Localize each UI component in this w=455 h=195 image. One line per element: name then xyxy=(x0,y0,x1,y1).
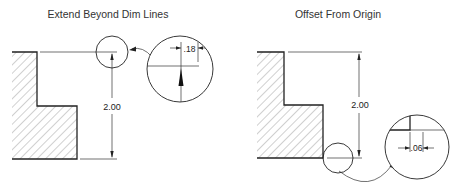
diagram-canvas: Extend Beyond Dim Lines 2.00 xyxy=(0,0,455,195)
leader-arrowhead-icon xyxy=(129,47,136,52)
detail-dimension-value: .06 xyxy=(411,143,423,153)
detail-dimension-value: .18 xyxy=(184,44,196,54)
arrowhead-up-icon xyxy=(110,53,113,60)
dimension-value: 2.00 xyxy=(103,102,121,112)
leader-curve xyxy=(339,165,392,182)
panel-title: Extend Beyond Dim Lines xyxy=(48,8,169,20)
detail-magnified-view: .18 xyxy=(147,36,213,102)
dimension-value: 2.00 xyxy=(351,100,369,110)
panel-extend-beyond-dim-lines: Extend Beyond Dim Lines 2.00 xyxy=(12,8,213,159)
arrowhead-up-icon xyxy=(357,53,360,60)
arrowhead-down-icon xyxy=(357,150,360,157)
arrowhead-down-icon xyxy=(110,151,113,158)
detail-magnified-view: .06 xyxy=(380,110,452,179)
panel-title: Offset From Origin xyxy=(295,8,381,20)
panel-offset-from-origin: Offset From Origin 2.00 .0 xyxy=(257,8,452,182)
